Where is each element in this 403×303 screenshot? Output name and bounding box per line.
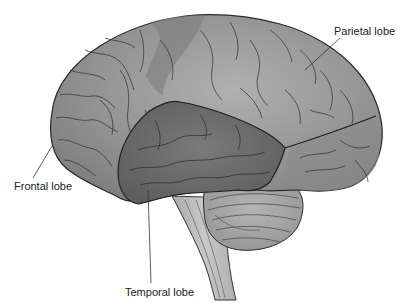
label-parietal-lobe: Parietal lobe: [334, 25, 395, 37]
frontal-leader-line: [33, 146, 52, 178]
temporal-leader-line: [148, 190, 151, 283]
label-temporal-lobe: Temporal lobe: [125, 286, 194, 298]
label-frontal-lobe: Frontal lobe: [14, 180, 72, 192]
cerebellum: [204, 182, 303, 250]
brain-diagram: Parietal lobe Frontal lobe Temporal lobe: [0, 0, 403, 303]
